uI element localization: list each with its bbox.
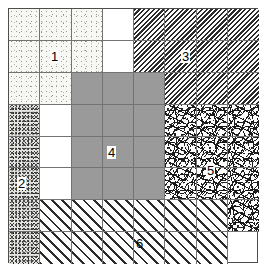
grid-cell xyxy=(134,73,165,105)
grid-cell xyxy=(40,168,71,200)
grid-cell xyxy=(9,232,40,264)
grid-cell xyxy=(228,200,259,232)
grid-cell xyxy=(103,200,134,232)
grid-cell xyxy=(165,232,196,264)
region-label-6: 6 xyxy=(135,237,144,250)
grid-cell xyxy=(165,9,196,41)
grid-cell xyxy=(228,137,259,169)
grid-cell xyxy=(228,168,259,200)
grid-cell xyxy=(197,200,228,232)
grid-cell xyxy=(228,73,259,105)
grid-cell xyxy=(197,73,228,105)
grid-cell xyxy=(9,41,40,73)
grid-cell xyxy=(9,137,40,169)
grid-cell xyxy=(103,9,134,41)
grid-cell xyxy=(72,41,103,73)
grid-cell xyxy=(134,200,165,232)
grid-cell xyxy=(40,232,71,264)
grid-cell xyxy=(165,168,196,200)
grid-cell xyxy=(40,200,71,232)
grid-cell xyxy=(72,137,103,169)
grid-cell xyxy=(9,105,40,137)
grid-cell xyxy=(40,105,71,137)
grid-cell xyxy=(197,9,228,41)
grid-cell xyxy=(72,232,103,264)
grid-cell xyxy=(9,9,40,41)
grid-cell xyxy=(40,9,71,41)
grid-cell xyxy=(9,200,40,232)
grid-cell xyxy=(165,137,196,169)
grid-cell xyxy=(103,73,134,105)
grid-cell xyxy=(40,137,71,169)
grid-cell xyxy=(40,73,71,105)
grid-cell xyxy=(72,73,103,105)
figure-canvas: 1 2 3 4 5 6 xyxy=(0,0,264,271)
grid-cell xyxy=(228,105,259,137)
region-label-5: 5 xyxy=(206,164,215,177)
grid-cell xyxy=(72,9,103,41)
grid-cell xyxy=(103,168,134,200)
region-label-4: 4 xyxy=(107,146,116,159)
grid-cell xyxy=(72,105,103,137)
grid-cell xyxy=(134,105,165,137)
grid-cell xyxy=(103,232,134,264)
grid-cell xyxy=(72,200,103,232)
grid-cell xyxy=(197,41,228,73)
grid-map: 1 2 3 4 5 6 xyxy=(8,8,258,263)
grid-cell xyxy=(134,9,165,41)
grid-cell xyxy=(103,105,134,137)
grid-cell xyxy=(228,41,259,73)
region-label-1: 1 xyxy=(50,50,59,63)
region-label-3: 3 xyxy=(181,50,190,63)
grid-cell xyxy=(228,232,259,264)
grid-cell xyxy=(103,41,134,73)
grid-cell xyxy=(165,200,196,232)
grid-cell xyxy=(165,105,196,137)
region-label-2: 2 xyxy=(17,177,26,190)
grid-cell xyxy=(228,9,259,41)
grid-cell xyxy=(165,73,196,105)
grid-cell xyxy=(72,168,103,200)
grid-cell xyxy=(134,168,165,200)
grid-cell xyxy=(197,105,228,137)
grid-cell xyxy=(9,73,40,105)
grid-cell xyxy=(197,232,228,264)
grid-cell xyxy=(134,137,165,169)
grid-cell xyxy=(134,41,165,73)
